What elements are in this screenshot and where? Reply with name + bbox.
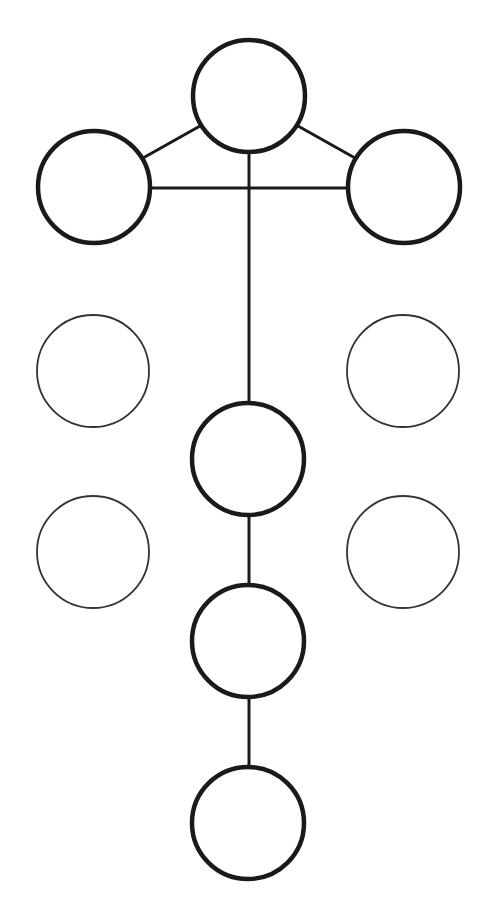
- node-upper-right: [348, 131, 460, 243]
- node-upper-left: [38, 131, 150, 243]
- node-mid-right-2: [347, 496, 459, 608]
- node-top: [193, 40, 305, 152]
- node-center-3: [192, 767, 304, 879]
- edge-top-upper-left: [143, 126, 200, 158]
- node-mid-right-1: [347, 315, 459, 427]
- edge-top-upper-right: [298, 126, 355, 158]
- node-mid-left-2: [37, 496, 149, 608]
- node-center-2: [192, 585, 304, 697]
- node-tree-diagram: [0, 0, 485, 904]
- node-center-1: [192, 403, 304, 515]
- node-mid-left-1: [37, 315, 149, 427]
